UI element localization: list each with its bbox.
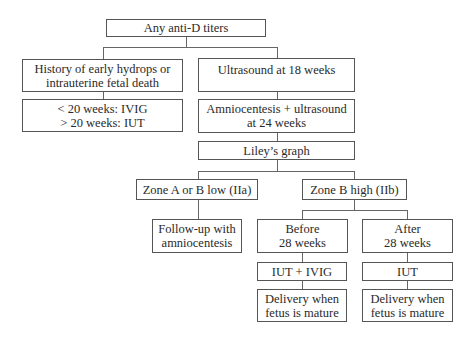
node-text: fetus is mature (371, 306, 445, 320)
node-amniocentesis-24-weeks: Amniocentesis + ultrasound at 24 weeks (198, 99, 355, 133)
connector (407, 281, 408, 289)
node-delivery-after: Delivery when fetus is mature (362, 289, 453, 322)
connector (277, 133, 278, 141)
connector (103, 47, 104, 59)
node-liley-graph: Liley’s graph (198, 141, 355, 160)
connector (302, 253, 303, 262)
node-history-treatment: < 20 weeks: IVIG > 20 weeks: IUT (22, 99, 183, 132)
node-text: Liley’s graph (243, 144, 309, 158)
node-text: fetus is mature (265, 306, 339, 320)
node-zone-a-or-b-low: Zone A or B low (IIa) (136, 179, 258, 200)
connector (277, 92, 278, 99)
node-before-28-weeks: Before 28 weeks (257, 219, 348, 253)
connector (198, 200, 199, 219)
connector (302, 210, 408, 211)
connector (354, 171, 355, 179)
connector (407, 210, 408, 219)
node-text: at 24 weeks (247, 116, 306, 130)
node-text: < 20 weeks: IVIG (57, 102, 147, 116)
node-zone-b-high: Zone B high (IIb) (302, 179, 407, 200)
node-text: intrauterine fetal death (46, 76, 159, 90)
connector (198, 171, 355, 172)
node-text: amniocentesis (162, 236, 233, 250)
connector (103, 47, 278, 48)
connector (354, 200, 355, 210)
node-text: > 20 weeks: IUT (60, 116, 144, 130)
node-text: Zone A or B low (IIa) (143, 183, 252, 197)
connector (198, 171, 199, 179)
node-text: After (394, 222, 420, 236)
node-text: Amniocentesis + ultrasound (206, 102, 346, 116)
node-text: Any anti-D titers (144, 21, 229, 35)
node-follow-up-amniocentesis: Follow-up with amniocentesis (152, 219, 242, 253)
node-text: History of early hydrops or (34, 62, 170, 76)
node-text: Delivery when (371, 292, 445, 306)
connector (277, 47, 278, 58)
connector (277, 159, 278, 171)
connector (302, 210, 303, 219)
node-ultrasound-18-weeks: Ultrasound at 18 weeks (198, 58, 355, 92)
node-text: IUT + IVIG (272, 265, 332, 279)
node-text: 28 weeks (384, 236, 431, 250)
connector (186, 37, 187, 47)
node-text: Before (285, 222, 319, 236)
node-delivery-before: Delivery when fetus is mature (257, 289, 347, 322)
node-after-28-weeks: After 28 weeks (362, 219, 453, 253)
node-iut: IUT (362, 262, 453, 281)
node-text: 28 weeks (279, 236, 326, 250)
connector (103, 92, 104, 99)
node-iut-ivig: IUT + IVIG (257, 262, 347, 281)
node-history-hydrops: History of early hydrops or intrauterine… (22, 59, 183, 92)
connector (407, 253, 408, 262)
connector (302, 281, 303, 289)
node-text: Follow-up with (158, 222, 235, 236)
node-any-anti-d-titers: Any anti-D titers (106, 19, 266, 37)
node-text: IUT (397, 265, 418, 279)
node-text: Zone B high (IIb) (310, 183, 399, 197)
node-text: Delivery when (265, 292, 339, 306)
node-text: Ultrasound at 18 weeks (218, 63, 336, 77)
